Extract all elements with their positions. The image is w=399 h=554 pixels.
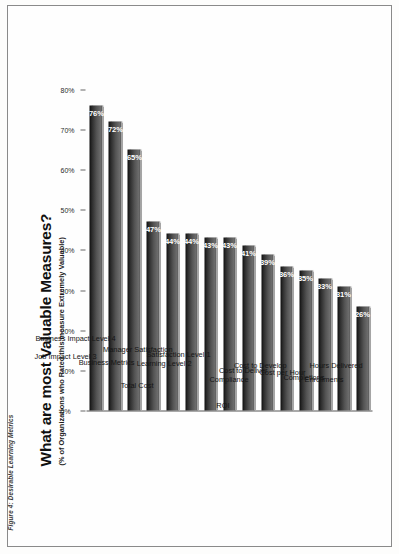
axis-tick-label: 10% — [60, 367, 74, 374]
bar-value-label: 43% — [202, 241, 217, 250]
bar — [356, 306, 369, 410]
category-label: Business Metrics — [78, 358, 134, 367]
category-label: Business Impact Level 4 — [34, 333, 114, 342]
bar-row: 44% — [185, 233, 198, 410]
bar-value-label: 65% — [126, 153, 141, 162]
axis-tick — [80, 330, 85, 331]
axis-tick-label: 40% — [60, 247, 74, 254]
category-label: Enrollments — [304, 374, 343, 383]
bar — [204, 237, 217, 410]
bar-value-label: 35% — [298, 273, 313, 282]
bar — [185, 233, 198, 410]
axis-tick-label: 0% — [60, 407, 70, 414]
bar-row: 33% — [318, 278, 331, 410]
bar — [280, 266, 293, 410]
axis-tick-label: 20% — [60, 327, 74, 334]
category-label: Hours Delivered — [309, 361, 362, 370]
bar-value-label: 31% — [336, 290, 351, 299]
bar-value-label: 41% — [240, 249, 255, 258]
axis-tick-label: 60% — [60, 166, 74, 173]
bar-row: 31% — [337, 286, 350, 410]
plot-area: 0%10%20%30%40%50%60%70%80% 76%72%65%47%4… — [86, 84, 372, 411]
bar — [127, 149, 140, 410]
bar — [223, 237, 236, 410]
bar-value-label: 39% — [260, 257, 275, 266]
bar-value-label: 76% — [88, 109, 103, 118]
bar-value-label: 43% — [221, 241, 236, 250]
scanned-page: Figure 4: Desirable Learning Metrics Wha… — [0, 0, 399, 554]
axis-tick — [80, 250, 85, 251]
bar-value-label: 26% — [355, 310, 370, 319]
axis-tick — [80, 89, 85, 90]
bar-row: 26% — [356, 306, 369, 410]
bar-value-label: 33% — [317, 281, 332, 290]
axis-tick-label: 50% — [60, 206, 74, 213]
bar — [166, 233, 179, 410]
bar-value-label: 44% — [183, 237, 198, 246]
axis-tick — [80, 169, 85, 170]
bar-row: 36% — [280, 266, 293, 410]
category-label: Learning Level 2 — [136, 359, 191, 368]
bar-row: 43% — [223, 237, 236, 410]
bar-row: 65% — [127, 149, 140, 410]
bar-row: 41% — [242, 246, 255, 411]
bar-row: 44% — [166, 233, 179, 410]
bar — [318, 278, 331, 410]
bar — [242, 246, 255, 411]
axis-tick-label: 80% — [60, 86, 74, 93]
category-label: Total Cost — [120, 381, 153, 390]
bar-value-label: 36% — [279, 269, 294, 278]
axis-tick — [80, 209, 85, 210]
bar-row: 43% — [204, 237, 217, 410]
bar-value-label: 47% — [145, 225, 160, 234]
category-label: Compliance — [209, 374, 248, 383]
axis-tick — [80, 370, 85, 371]
bar-row: 35% — [299, 270, 312, 410]
bar-chart: What are most Valuable Measures? (% of O… — [0, 0, 399, 554]
category-label: Satisfaction Level 1 — [146, 349, 210, 358]
category-label: ROI — [216, 400, 229, 409]
bar-value-label: 72% — [107, 125, 122, 134]
axis-tick — [80, 290, 85, 291]
rotated-figure-wrapper: Figure 4: Desirable Learning Metrics Wha… — [0, 0, 399, 554]
axis-tick — [80, 129, 85, 130]
bar — [299, 270, 312, 410]
axis-tick — [80, 410, 85, 411]
axis-tick-label: 30% — [60, 287, 74, 294]
axis-tick-label: 70% — [60, 126, 74, 133]
bar-row: 39% — [261, 254, 274, 410]
bar — [337, 286, 350, 410]
chart-subtitle: (% of Organizations who Rated this measu… — [56, 237, 65, 465]
bar-value-label: 44% — [164, 237, 179, 246]
bar — [261, 254, 274, 410]
